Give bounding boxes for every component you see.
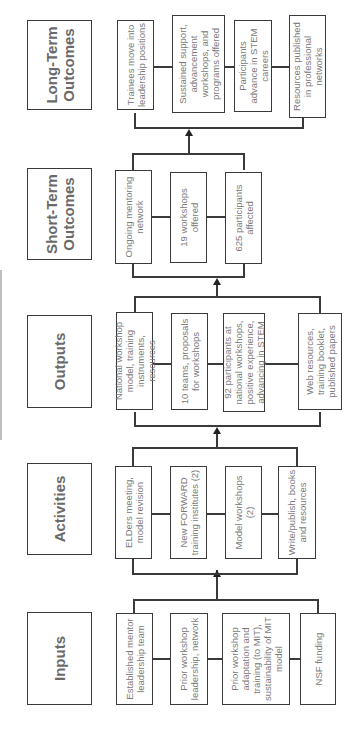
connector-line xyxy=(134,297,136,313)
activities-item: New FORWARD training institutes (2) xyxy=(170,466,207,559)
header-long-term-label: Long-Term Outcomes xyxy=(43,21,77,109)
box-label: ELDers meeting, model revision xyxy=(123,469,145,556)
activities-bottom-bracket xyxy=(132,573,298,575)
connector-line xyxy=(319,297,321,313)
box-label: Model workshops (2) xyxy=(233,469,255,556)
box-label: 625 participants affected xyxy=(233,175,255,261)
inputs-item: NSF funding xyxy=(300,613,336,705)
activities-to-outputs-connector xyxy=(216,432,218,448)
box-label: Resources published in professional netw… xyxy=(291,18,324,115)
long-term-item: Participants advance in STEM careers xyxy=(234,20,272,112)
long-term-item: Trainees move into leadership positions xyxy=(117,20,154,110)
header-short-term-outcomes: Short-Term Outcomes xyxy=(27,168,92,260)
activities-spine xyxy=(130,513,298,515)
box-label: 19 workshops offered xyxy=(178,175,200,260)
connector-line xyxy=(317,599,319,613)
box-label: Established mentor leadership team xyxy=(124,616,146,702)
box-label: 92 participants at national workshops, p… xyxy=(222,316,266,409)
header-activities-label: Activities xyxy=(51,476,68,543)
connector-line xyxy=(296,448,298,466)
outputs-item: 10 teams, proposals for workshops xyxy=(171,313,208,410)
box-label: NSF funding xyxy=(313,633,324,686)
inputs-item: Established mentor leadership team xyxy=(116,613,153,705)
box-label: 10 teams, proposals for workshops xyxy=(179,316,201,407)
header-outputs: Outputs xyxy=(27,315,92,408)
box-label: Web resources, training booklet, publish… xyxy=(304,316,337,407)
short-term-item: 19 workshops offered xyxy=(170,172,207,263)
connector-line xyxy=(132,448,134,466)
connector-line xyxy=(319,412,321,427)
box-label: New FORWARD training institutes (2) xyxy=(178,469,200,556)
short-term-bottom-bracket xyxy=(132,276,245,278)
outputs-item: Web resources, training booklet, publish… xyxy=(298,313,342,410)
header-outputs-label: Outputs xyxy=(51,333,68,391)
connector-line xyxy=(243,264,245,278)
connector-line xyxy=(134,113,136,129)
outputs-item: 92 participants at national workshops, p… xyxy=(223,313,265,412)
box-label: Trainees move into leadership positions xyxy=(125,23,147,107)
cropped-edge-line xyxy=(0,270,2,440)
box-label: Ongoing mentoring network xyxy=(123,173,145,261)
connector-line xyxy=(243,154,245,170)
short-term-item: Ongoing mentoring network xyxy=(115,170,152,264)
long-term-item: Sustained support, advancement workshops… xyxy=(172,15,225,113)
header-long-term-outcomes: Long-Term Outcomes xyxy=(27,20,92,110)
activities-item: Write/publish, books and resources xyxy=(278,466,316,559)
connector-line xyxy=(133,599,135,613)
arrow-right-icon xyxy=(185,129,193,136)
arrow-right-icon xyxy=(213,427,221,434)
connector-line xyxy=(296,559,298,575)
connector-line xyxy=(134,412,136,427)
outputs-bottom-bracket xyxy=(134,425,321,427)
outputs-to-short-term-connector xyxy=(216,283,218,297)
arrow-right-icon xyxy=(213,278,221,285)
inputs-bracket xyxy=(133,599,319,601)
outputs-item: National workshop model, training instru… xyxy=(116,312,153,410)
box-label: National workshop model, training instru… xyxy=(113,315,157,407)
box-label: Sustained support, advancement workshops… xyxy=(177,18,221,110)
inputs-item: Prior workshop adaptation and training (… xyxy=(222,613,290,705)
header-short-term-label: Short-Term Outcomes xyxy=(43,169,77,259)
header-activities: Activities xyxy=(27,463,92,555)
activities-top-bracket xyxy=(132,447,298,449)
box-label: Prior workshop adaptation and training (… xyxy=(229,616,284,702)
inputs-item: Prior workshop leadership, network xyxy=(170,613,208,705)
logic-model-diagram: Inputs Activities Outputs Short-Term Out… xyxy=(0,0,351,735)
box-label: Write/publish, books and resources xyxy=(286,469,308,556)
header-inputs-label: Inputs xyxy=(51,636,68,681)
long-term-item: Resources published in professional netw… xyxy=(289,15,326,118)
box-label: Participants advance in STEM careers xyxy=(237,23,270,109)
connector-line xyxy=(132,154,134,170)
activities-item: Model workshops (2) xyxy=(225,466,262,559)
activities-item: ELDers meeting, model revision xyxy=(115,466,152,559)
connector-line xyxy=(132,264,134,278)
connector-line xyxy=(132,559,134,575)
outputs-top-bracket xyxy=(134,296,321,298)
box-label: Prior workshop leadership, network xyxy=(178,616,200,702)
header-inputs: Inputs xyxy=(27,612,92,705)
long-term-bracket xyxy=(134,127,304,129)
short-term-to-long-term-connector xyxy=(188,134,190,154)
short-term-item: 625 participants affected xyxy=(225,172,262,264)
